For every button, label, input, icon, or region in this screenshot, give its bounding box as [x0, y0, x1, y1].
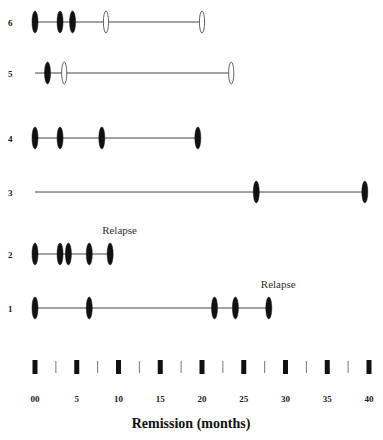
filled-event-marker-icon — [99, 127, 105, 149]
x-tick-label: 10 — [114, 394, 124, 404]
major-tick-bar — [33, 360, 38, 374]
filled-event-marker-icon — [86, 297, 92, 319]
filled-event-marker-icon — [45, 62, 51, 84]
patient-row-3: 3 — [8, 181, 368, 203]
row-label: 5 — [8, 69, 13, 79]
row-label: 4 — [8, 134, 13, 144]
x-tick-label: 30 — [281, 394, 291, 404]
open-event-marker-icon — [103, 11, 108, 33]
patient-row-2: 2Relapse — [8, 224, 137, 265]
patient-row-6: 6 — [8, 11, 205, 33]
row-label: 6 — [8, 18, 13, 28]
patient-row-5: 5 — [8, 62, 234, 84]
x-tick-label: 5 — [75, 394, 80, 404]
filled-event-marker-icon — [57, 11, 63, 33]
x-tick-label: 00 — [31, 394, 41, 404]
x-axis-title: Remission (months) — [132, 416, 251, 432]
filled-event-marker-icon — [362, 181, 368, 203]
x-tick-label: 35 — [323, 394, 333, 404]
major-tick-bar — [74, 360, 79, 374]
filled-event-marker-icon — [32, 243, 38, 265]
filled-event-marker-icon — [232, 297, 238, 319]
row-label: 1 — [8, 304, 13, 314]
remission-timeline-chart: 65432Relapse1Relapse 00510152025303540 R… — [0, 0, 383, 440]
patient-row-4: 4 — [8, 127, 201, 149]
filled-event-marker-icon — [195, 127, 201, 149]
filled-event-marker-icon — [32, 297, 38, 319]
x-tick-label: 20 — [198, 394, 208, 404]
x-tick-label: 15 — [156, 394, 166, 404]
patient-row-1: 1Relapse — [8, 278, 296, 319]
relapse-annotation: Relapse — [102, 224, 137, 236]
filled-event-marker-icon — [266, 297, 272, 319]
major-tick-bar — [283, 360, 288, 374]
row-label: 2 — [8, 250, 13, 260]
major-tick-bar — [325, 360, 330, 374]
major-tick-bar — [241, 360, 246, 374]
row-label: 3 — [8, 188, 13, 198]
filled-event-marker-icon — [57, 243, 63, 265]
x-tick-label: 25 — [239, 394, 249, 404]
filled-event-marker-icon — [57, 127, 63, 149]
patient-rows: 65432Relapse1Relapse — [8, 11, 368, 319]
filled-event-marker-icon — [32, 127, 38, 149]
filled-event-marker-icon — [86, 243, 92, 265]
relapse-annotation: Relapse — [261, 278, 296, 290]
filled-event-marker-icon — [212, 297, 218, 319]
open-event-marker-icon — [62, 62, 67, 84]
open-event-marker-icon — [229, 62, 234, 84]
filled-event-marker-icon — [70, 11, 76, 33]
major-tick-bar — [367, 360, 372, 374]
major-tick-bar — [116, 360, 121, 374]
major-tick-bar — [158, 360, 163, 374]
open-event-marker-icon — [199, 11, 204, 33]
major-tick-bar — [200, 360, 205, 374]
filled-event-marker-icon — [65, 243, 71, 265]
filled-event-marker-icon — [32, 11, 38, 33]
x-axis: 00510152025303540 — [31, 360, 375, 404]
x-tick-label: 40 — [365, 394, 375, 404]
filled-event-marker-icon — [253, 181, 259, 203]
filled-event-marker-icon — [107, 243, 113, 265]
